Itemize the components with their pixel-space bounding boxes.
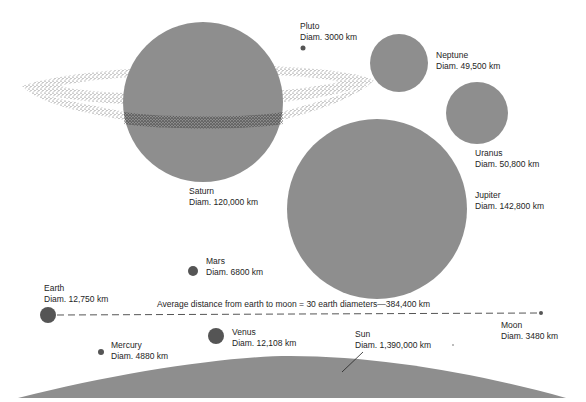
venus-label: Venus Diam. 12,108 km bbox=[232, 327, 296, 349]
moon-body bbox=[539, 311, 543, 315]
neptune-diameter: Diam. 49,500 km bbox=[436, 61, 500, 72]
mercury-diameter: Diam. 4880 km bbox=[111, 351, 168, 362]
uranus-body bbox=[446, 82, 508, 144]
venus-diameter: Diam. 12,108 km bbox=[232, 338, 296, 349]
pluto-diameter: Diam. 3000 km bbox=[300, 32, 357, 43]
pluto-label: Pluto Diam. 3000 km bbox=[300, 21, 357, 43]
mars-body bbox=[188, 266, 198, 276]
jupiter-label: Jupiter Diam. 142,800 km bbox=[475, 190, 544, 212]
earth-moon-caption: Average distance from earth to moon = 30… bbox=[157, 299, 430, 309]
sun-diameter: Diam. 1,390,000 km bbox=[355, 340, 431, 351]
moon-diameter: Diam. 3480 km bbox=[501, 331, 558, 342]
venus-body bbox=[208, 328, 224, 344]
moon-name: Moon bbox=[501, 320, 558, 331]
mercury-name: Mercury bbox=[111, 340, 168, 351]
saturn-label: Saturn Diam. 120,000 km bbox=[189, 186, 258, 208]
jupiter-diameter: Diam. 142,800 km bbox=[475, 201, 544, 212]
jupiter-name: Jupiter bbox=[475, 190, 544, 201]
jupiter-body bbox=[287, 119, 467, 299]
venus-name: Venus bbox=[232, 327, 296, 338]
uranus-name: Uranus bbox=[475, 148, 539, 159]
sun-body bbox=[18, 356, 566, 398]
uranus-label: Uranus Diam. 50,800 km bbox=[475, 148, 539, 170]
saturn-name: Saturn bbox=[189, 186, 258, 197]
uranus-diameter: Diam. 50,800 km bbox=[475, 159, 539, 170]
sun-name: Sun bbox=[355, 329, 431, 340]
mercury-label: Mercury Diam. 4880 km bbox=[111, 340, 168, 362]
sun-label: Sun Diam. 1,390,000 km bbox=[355, 329, 431, 351]
earth-name: Earth bbox=[44, 283, 108, 294]
earth-body bbox=[40, 307, 56, 323]
earth-moon-distance-line bbox=[57, 313, 539, 315]
mars-label: Mars Diam. 6800 km bbox=[206, 256, 263, 278]
earth-diameter: Diam. 12,750 km bbox=[44, 294, 108, 305]
neptune-body bbox=[370, 34, 428, 92]
saturn-diameter: Diam. 120,000 km bbox=[189, 197, 258, 208]
mercury-body bbox=[98, 349, 104, 355]
mars-name: Mars bbox=[206, 256, 263, 267]
mars-diameter: Diam. 6800 km bbox=[206, 267, 263, 278]
saturn-body bbox=[123, 22, 283, 182]
neptune-name: Neptune bbox=[436, 50, 500, 61]
neptune-label: Neptune Diam. 49,500 km bbox=[436, 50, 500, 72]
pluto-name: Pluto bbox=[300, 21, 357, 32]
earth-label: Earth Diam. 12,750 km bbox=[44, 283, 108, 305]
pluto-body bbox=[301, 46, 306, 51]
moon-label: Moon Diam. 3480 km bbox=[501, 320, 558, 342]
